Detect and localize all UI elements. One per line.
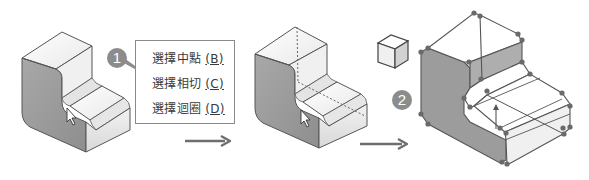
- step-badge-2: 2: [392, 90, 412, 110]
- menu-item-select-loop[interactable]: 選擇迴圈 (D): [152, 99, 225, 116]
- part-selected-result: [418, 10, 572, 166]
- context-menu: 選擇中點 (B) 選擇相切 (C) 選擇迴圈 (D): [135, 40, 235, 124]
- menu-item-select-tangency[interactable]: 選擇相切 (C): [152, 74, 224, 91]
- step-badge-1: 1: [107, 48, 127, 68]
- menu-item-shortcut: (B): [205, 52, 224, 66]
- right-arrow-icon: [360, 139, 407, 149]
- menu-item-select-midpoint[interactable]: 選擇中點 (B): [152, 49, 224, 66]
- menu-item-shortcut: (C): [205, 77, 224, 91]
- step-number: 1: [113, 49, 121, 66]
- menu-item-label: 選擇迴圈: [152, 102, 201, 116]
- diagram-canvas: [0, 0, 589, 180]
- right-arrow-icon: [185, 136, 230, 146]
- menu-item-shortcut: (D): [205, 102, 225, 116]
- menu-item-label: 選擇相切: [152, 77, 201, 91]
- menu-item-label: 選擇中點: [152, 52, 201, 66]
- step-number: 2: [398, 91, 406, 108]
- view-cube-icon[interactable]: [378, 35, 408, 68]
- part-tangent-preview: [255, 27, 367, 148]
